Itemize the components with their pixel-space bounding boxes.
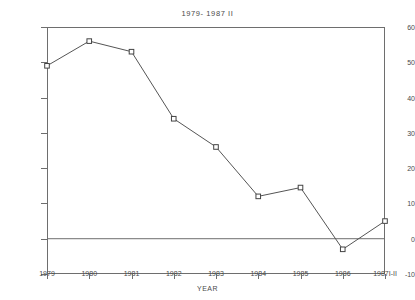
chart-container: 1979- 1987 II -100102030405060 197919801… — [0, 0, 415, 300]
data-point-marker — [129, 49, 134, 54]
data-point-marker — [298, 185, 303, 190]
series-layer — [0, 0, 415, 300]
data-point-marker — [45, 64, 50, 69]
data-point-marker — [87, 39, 92, 44]
data-point-markers — [45, 39, 388, 252]
data-point-marker — [171, 116, 176, 121]
data-point-marker — [383, 219, 388, 224]
x-axis-title: YEAR — [0, 285, 415, 292]
data-point-marker — [256, 194, 261, 199]
data-point-marker — [340, 247, 345, 252]
data-point-marker — [214, 145, 219, 150]
